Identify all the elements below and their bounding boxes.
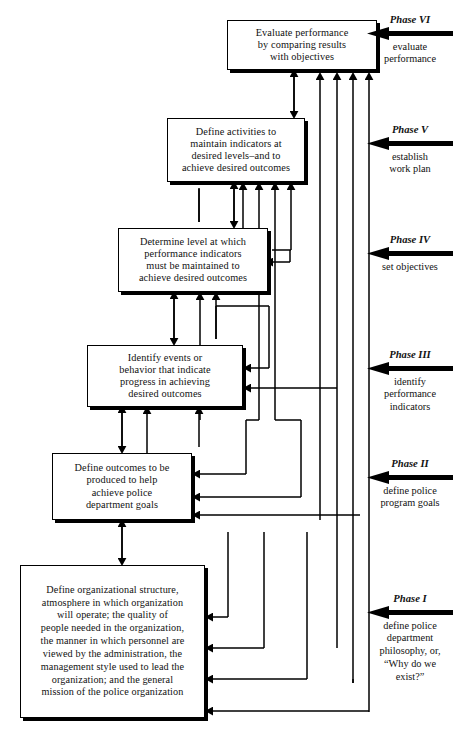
phase-label-3: Phase III identify performance indicator… (358, 349, 462, 413)
phase-label-2-sub-0: define police (358, 485, 462, 497)
phase-label-1-sub-3: “Why do we (358, 658, 462, 670)
phase-label-1: Phase I define police department philoso… (358, 593, 462, 683)
phase-box-6-text: Evaluate performance by comparing result… (252, 25, 353, 65)
phase-label-5-title: Phase V (358, 124, 462, 136)
left-arrow-icon (367, 606, 453, 619)
phase-label-3-sub-0: identify (358, 376, 462, 388)
phase-box-4[interactable]: Determine level at which performance ind… (118, 228, 268, 292)
feedback-into-1-right-c (212, 532, 307, 679)
flowchart-canvas: Evaluate performance by comparing result… (0, 0, 465, 744)
phase-box-4-text: Determine level at which performance ind… (135, 234, 251, 287)
phase-label-4-title: Phase IV (358, 234, 462, 246)
phase-label-6: Phase VI evaluate performance (358, 14, 462, 65)
left-arrow-icon (367, 471, 453, 484)
phase-label-5-sub-1: work plan (358, 163, 462, 175)
phase-box-2[interactable]: Define outcomes to be produced to help a… (52, 453, 192, 520)
phase-label-1-title: Phase I (358, 593, 462, 605)
phase-label-1-sub-0: define police (358, 620, 462, 632)
phase-label-4-sub-0: set objectives (358, 261, 462, 273)
phase-label-1-sub-4: exist?” (358, 671, 462, 683)
left-arrow-icon (367, 137, 453, 150)
left-arrow-icon (367, 27, 453, 40)
phase-box-3-text: Identify events or behavior that indicat… (115, 350, 214, 403)
feedback-into-2-right-b (199, 420, 301, 497)
left-arrow-icon (367, 247, 453, 260)
phase-label-3-sub-1: performance (358, 388, 462, 400)
phase-label-5: Phase V establish work plan (358, 124, 462, 175)
phase-label-3-title: Phase III (358, 349, 462, 361)
left-arrow-icon (367, 362, 453, 375)
phase-box-1-text: Define organizational structure, atmosph… (37, 582, 189, 702)
phase-label-2-title: Phase II (358, 458, 462, 470)
phase-box-6[interactable]: Evaluate performance by comparing result… (227, 20, 377, 70)
phase-box-5-text: Define activities to maintain indicators… (178, 124, 294, 177)
phase-label-6-sub-0: evaluate (358, 41, 462, 53)
phase-label-2-sub-1: program goals (358, 497, 462, 509)
phase-label-4: Phase IV set objectives (358, 234, 462, 272)
phase-label-5-sub-0: establish (358, 151, 462, 163)
feedback-into-2-right-a (199, 420, 246, 474)
phase-box-3[interactable]: Identify events or behavior that indicat… (87, 345, 243, 407)
feedback-arrows-into-3 (147, 413, 199, 447)
phase-label-1-sub-1: department (358, 632, 462, 644)
phase-box-5[interactable]: Define activities to maintain indicators… (167, 118, 305, 182)
phase-label-3-sub-2: indicators (358, 401, 462, 413)
feedback-into-1-right-a (212, 532, 228, 617)
feedback-into-1-right-b (212, 532, 264, 648)
phase-box-2-text: Define outcomes to be produced to help a… (70, 460, 173, 513)
phase-label-6-title: Phase VI (358, 14, 462, 26)
phase-label-2: Phase II define police program goals (358, 458, 462, 509)
phase-label-1-sub-2: philosophy, or, (358, 645, 462, 657)
phase-label-6-sub-1: performance (358, 53, 462, 65)
feedback-arrows-into-4 (200, 299, 216, 339)
phase-box-1[interactable]: Define organizational structure, atmosph… (20, 565, 205, 718)
